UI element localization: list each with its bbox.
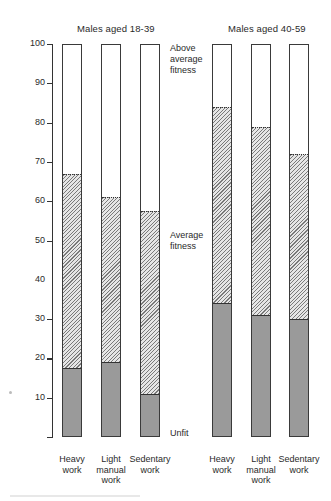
y-tick bbox=[47, 83, 52, 84]
x-label-line: Heavy bbox=[50, 454, 94, 465]
y-axis-line bbox=[52, 44, 53, 437]
segment-unfit bbox=[63, 368, 81, 436]
y-tick bbox=[47, 358, 52, 359]
x-label-line: Heavy bbox=[200, 454, 244, 465]
x-category-label: Lightmanualwork bbox=[89, 454, 133, 486]
x-label-line: work bbox=[239, 475, 283, 486]
y-tick bbox=[47, 201, 52, 202]
x-label-line: work bbox=[89, 475, 133, 486]
stacked-bar bbox=[289, 44, 309, 437]
x-label-line: Light bbox=[89, 454, 133, 465]
x-label-line: manual bbox=[89, 465, 133, 476]
y-tick bbox=[47, 123, 52, 124]
segment-average-fitness bbox=[252, 127, 270, 316]
segment-average-fitness bbox=[63, 174, 81, 369]
stacked-bar bbox=[101, 44, 121, 437]
x-label-line: work bbox=[200, 465, 244, 476]
segment-unfit bbox=[102, 362, 120, 436]
panel-title: Males aged 40-59 bbox=[228, 23, 306, 34]
y-tick-label: 60 bbox=[23, 195, 45, 205]
x-category-label: Heavywork bbox=[50, 454, 94, 475]
label-average-fitness: Averagefitness bbox=[170, 230, 203, 252]
x-category-label: Heavywork bbox=[200, 454, 244, 475]
segment-average-fitness bbox=[141, 211, 159, 394]
y-tick-label: 20 bbox=[23, 352, 45, 362]
scan-speck bbox=[9, 391, 12, 394]
y-tick-label: 100 bbox=[23, 38, 45, 48]
segment-unfit bbox=[252, 315, 270, 436]
x-label-line: work bbox=[50, 465, 94, 476]
label-above-average-fitness: Aboveaveragefitness bbox=[170, 43, 203, 76]
y-tick bbox=[47, 44, 52, 45]
stacked-bar bbox=[212, 44, 232, 437]
label-unfit: Unfit bbox=[170, 428, 189, 439]
y-tick bbox=[47, 241, 52, 242]
side-label-line: fitness bbox=[170, 65, 203, 76]
y-tick-label: 70 bbox=[23, 156, 45, 166]
segment-average-fitness bbox=[290, 154, 308, 319]
stacked-bar bbox=[251, 44, 271, 437]
side-label-line: fitness bbox=[170, 241, 203, 252]
y-tick-label: 10 bbox=[23, 392, 45, 402]
panel-title: Males aged 18-39 bbox=[77, 23, 155, 34]
side-label-line: Unfit bbox=[170, 428, 189, 439]
y-tick-label: 50 bbox=[23, 235, 45, 245]
y-tick bbox=[47, 319, 52, 320]
segment-unfit bbox=[213, 303, 231, 436]
y-tick-label: 80 bbox=[23, 117, 45, 127]
segment-average-fitness bbox=[102, 197, 120, 362]
x-label-line: work bbox=[277, 465, 321, 476]
y-axis-foot bbox=[47, 437, 53, 438]
x-label-line: Sedentary bbox=[128, 454, 172, 465]
y-tick-label: 40 bbox=[23, 274, 45, 284]
stacked-bar bbox=[140, 44, 160, 437]
y-tick bbox=[47, 398, 52, 399]
x-category-label: Sedentarywork bbox=[277, 454, 321, 475]
y-tick-label: 30 bbox=[23, 313, 45, 323]
y-tick bbox=[47, 162, 52, 163]
side-label-line: average bbox=[170, 54, 203, 65]
x-category-label: Sedentarywork bbox=[128, 454, 172, 475]
segment-unfit bbox=[141, 394, 159, 436]
stacked-bar bbox=[62, 44, 82, 437]
segment-average-fitness bbox=[213, 107, 231, 304]
side-label-line: Average bbox=[170, 230, 203, 241]
side-label-line: Above bbox=[170, 43, 203, 54]
y-tick-label: 90 bbox=[23, 77, 45, 87]
x-label-line: work bbox=[128, 465, 172, 476]
x-label-line: Sedentary bbox=[277, 454, 321, 465]
segment-unfit bbox=[290, 319, 308, 436]
caption-cropped bbox=[10, 495, 140, 497]
